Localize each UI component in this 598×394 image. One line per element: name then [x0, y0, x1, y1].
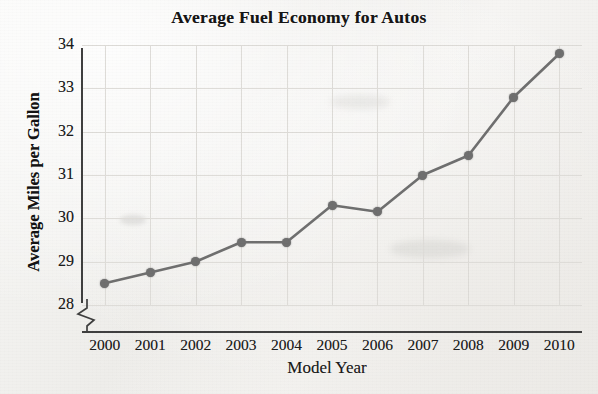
- y-tick-label: 28: [40, 295, 74, 313]
- data-point-marker: [100, 279, 109, 288]
- gridline-vertical: [377, 45, 378, 305]
- data-point-marker: [237, 238, 246, 247]
- y-tick-label: 32: [40, 122, 74, 140]
- gridline-vertical: [559, 45, 560, 305]
- gridline-horizontal: [82, 305, 582, 306]
- y-tick-label: 29: [40, 252, 74, 270]
- gridline-vertical: [196, 45, 197, 305]
- gridline-vertical: [287, 45, 288, 305]
- data-point-marker: [191, 257, 200, 266]
- data-point-marker: [328, 201, 337, 210]
- gridline-vertical: [468, 45, 469, 305]
- data-point-marker: [146, 268, 155, 277]
- chart-figure: Average Fuel Economy for Autos Average M…: [0, 0, 598, 394]
- chart-title: Average Fuel Economy for Autos: [0, 7, 598, 28]
- gridline-vertical: [150, 45, 151, 305]
- data-point-marker: [282, 238, 291, 247]
- data-point-marker: [509, 93, 518, 102]
- data-point-marker: [464, 151, 473, 160]
- x-axis-title: Model Year: [82, 358, 572, 378]
- axis-break-icon: [74, 299, 100, 333]
- y-tick-label: 31: [40, 165, 74, 183]
- y-tick-label: 34: [40, 35, 74, 53]
- x-tick-label: 2010: [531, 336, 587, 354]
- gridline-vertical: [332, 45, 333, 305]
- x-axis-line: [82, 331, 582, 333]
- data-point-marker: [373, 207, 382, 216]
- gridline-vertical: [514, 45, 515, 305]
- gridline-vertical: [241, 45, 242, 305]
- y-tick-label: 33: [40, 78, 74, 96]
- y-axis-line: [81, 48, 83, 303]
- data-point-marker: [555, 49, 564, 58]
- gridline-vertical: [105, 45, 106, 305]
- plot-area: [82, 45, 582, 305]
- y-tick-label: 30: [40, 208, 74, 226]
- data-point-marker: [418, 171, 427, 180]
